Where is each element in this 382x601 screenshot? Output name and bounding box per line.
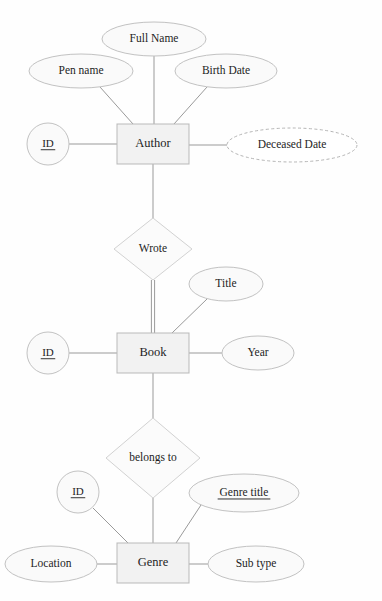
attribute-author-full-name-label: Full Name [130,32,179,44]
edge-genre-id-stroke [93,508,128,543]
attribute-book-year-label: Year [247,346,268,358]
attribute-genre-sub-type-label: Sub type [236,557,277,570]
attribute-book-id[interactable]: ID [27,332,69,374]
edge-book-title [172,299,207,333]
attribute-layer: IDPen nameFull NameBirth DateDeceased Da… [5,22,357,582]
attribute-genre-id-label: ID [72,485,84,497]
attribute-author-deceased-date[interactable]: Deceased Date [227,128,357,162]
attribute-genre-title-label: Genre title [220,486,269,498]
edge-genre-title-stroke [176,505,201,543]
entity-book[interactable]: Book [117,333,189,373]
relationship-belongs-to[interactable]: belongs to [106,418,200,498]
edge-author-birth-date [174,87,207,124]
attribute-author-id-label: ID [42,137,54,149]
entity-book-label: Book [139,345,167,359]
attribute-author-birth-date-label: Birth Date [202,64,250,76]
attribute-author-id[interactable]: ID [27,123,69,165]
edge-author-pen-name [100,87,133,124]
attribute-author-deceased-date-label: Deceased Date [258,138,327,150]
attribute-genre-id[interactable]: ID [57,471,99,513]
edge-book-title-stroke [172,299,207,333]
attribute-book-id-label: ID [42,346,54,358]
attribute-author-birth-date[interactable]: Birth Date [175,54,277,88]
edge-author-pen-name-stroke [100,87,133,124]
relationship-belongs-to-label: belongs to [129,451,177,464]
attribute-genre-title[interactable]: Genre title [189,474,299,512]
attribute-author-pen-name-label: Pen name [58,64,103,76]
relationship-wrote[interactable]: Wrote [114,218,192,280]
edge-author-birth-date-stroke [174,87,207,124]
attribute-genre-location[interactable]: Location [5,546,97,582]
entity-genre[interactable]: Genre [117,543,189,583]
entity-author-label: Author [135,136,171,150]
relationship-wrote-label: Wrote [139,242,167,254]
edge-genre-id [93,508,128,543]
attribute-author-pen-name[interactable]: Pen name [29,54,133,88]
er-diagram-canvas: Wrotebelongs to IDPen nameFull NameBirth… [0,0,382,601]
attribute-genre-location-label: Location [31,557,72,569]
attribute-author-full-name[interactable]: Full Name [102,22,206,56]
edge-wrote-book [151,280,154,333]
attribute-genre-sub-type[interactable]: Sub type [208,546,304,582]
edge-genre-title [176,505,201,543]
entity-genre-label: Genre [138,555,169,569]
attribute-book-year[interactable]: Year [222,336,294,370]
entity-author[interactable]: Author [117,124,189,164]
attribute-book-title[interactable]: Title [189,267,263,301]
attribute-book-title-label: Title [215,277,236,289]
